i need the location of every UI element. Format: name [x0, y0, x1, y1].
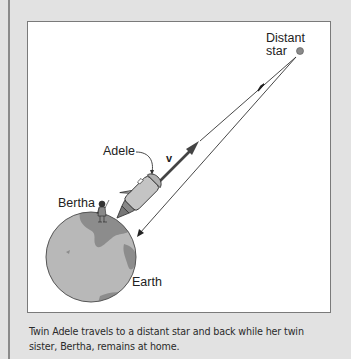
bertha-label: Bertha [58, 197, 95, 210]
earth-label: Earth [132, 276, 162, 289]
twin-paradox-diagram [0, 0, 351, 359]
outbound-arrowhead-icon [258, 84, 264, 91]
distant-star-icon [297, 48, 304, 55]
adele-pointer [136, 152, 152, 172]
adele-label: Adele [103, 145, 135, 158]
velocity-label: v [166, 152, 172, 165]
distant-star-label-line2: star [266, 45, 287, 58]
velocity-arrow-icon [159, 141, 199, 182]
trajectory-lines [140, 57, 296, 233]
earth-icon [46, 212, 136, 310]
figure-caption: Twin Adele travels to a distant star and… [29, 324, 329, 354]
